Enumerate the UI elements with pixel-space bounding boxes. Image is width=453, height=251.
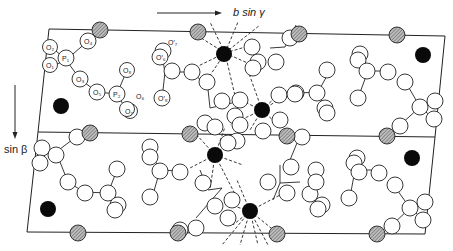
axis-label-vertical: sin β bbox=[4, 143, 27, 155]
crystal-structure-diagram: b sin γ sin β bbox=[0, 0, 453, 251]
label-O8-prime: O′₈ bbox=[158, 95, 168, 102]
label-P2: P₂ bbox=[113, 91, 121, 98]
label-O6-prime: O′₆ bbox=[156, 54, 166, 61]
axis-sin-beta: sin β bbox=[4, 85, 27, 155]
label-O3: O₃ bbox=[76, 76, 84, 83]
label-O1: O₁ bbox=[46, 62, 54, 69]
label-O8: O₈ bbox=[123, 67, 131, 74]
label-O2: O₂ bbox=[46, 44, 54, 51]
label-O7: O₇ bbox=[125, 108, 133, 115]
label-O5: O₅ bbox=[93, 89, 101, 96]
axis-b-sin-gamma: b sin γ bbox=[157, 6, 266, 18]
label-O6: O₆ bbox=[136, 93, 144, 100]
label-P1: P₁ bbox=[62, 55, 70, 62]
label-O4: O₄ bbox=[84, 38, 92, 45]
axis-label-horizontal: b sin γ bbox=[233, 6, 266, 18]
label-O7-prime: O′₇ bbox=[168, 39, 178, 46]
